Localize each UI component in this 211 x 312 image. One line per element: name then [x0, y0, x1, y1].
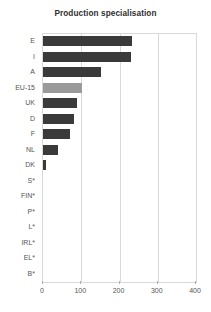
bar-row	[43, 267, 196, 283]
bar-nl	[43, 145, 58, 155]
bar-d	[43, 114, 74, 124]
bar-uk	[43, 98, 77, 108]
y-axis-label: S*	[0, 173, 38, 189]
bar-row	[43, 34, 196, 50]
x-axis-tick	[42, 281, 43, 284]
y-axis-label: L*	[0, 219, 38, 235]
bar-row	[43, 220, 196, 236]
bar-row	[43, 127, 196, 143]
bar-row	[43, 81, 196, 97]
y-axis-label: B*	[0, 266, 38, 282]
y-axis-label: DK	[0, 157, 38, 173]
y-axis-label: EU-15	[0, 80, 38, 96]
bar-dk	[43, 160, 46, 170]
x-axis-tick-label: 300	[151, 286, 163, 296]
bar-row	[43, 174, 196, 190]
bar-row	[43, 65, 196, 81]
bar-row	[43, 143, 196, 159]
x-axis-tick-labels: 0100200300400	[0, 286, 211, 298]
bar-row	[43, 112, 196, 128]
x-axis-tick	[157, 281, 158, 284]
production-specialisation-chart: Production specialisation EIAEU-15UKDFNL…	[0, 0, 211, 312]
y-axis-label: F	[0, 126, 38, 142]
x-axis-tick	[195, 281, 196, 284]
bar-row	[43, 96, 196, 112]
bar-row	[43, 50, 196, 66]
y-axis-label: UK	[0, 95, 38, 111]
x-axis-tick	[80, 281, 81, 284]
bar-row	[43, 251, 196, 267]
y-axis-label: FIN*	[0, 188, 38, 204]
y-axis-label: A	[0, 64, 38, 80]
bar-series	[43, 34, 196, 282]
bar-row	[43, 189, 196, 205]
y-axis-category-labels: EIAEU-15UKDFNLDKS*FIN*P*L*IRL*EL*B*	[0, 33, 38, 281]
x-axis-tick-label: 200	[113, 286, 125, 296]
y-axis-label: I	[0, 49, 38, 65]
bar-a	[43, 67, 101, 77]
bar-e	[43, 36, 132, 46]
bar-f	[43, 129, 70, 139]
y-axis-label: EL*	[0, 250, 38, 266]
bar-row	[43, 205, 196, 221]
y-axis-label: IRL*	[0, 235, 38, 251]
bar-row	[43, 236, 196, 252]
y-axis-label: P*	[0, 204, 38, 220]
x-axis-tick-label: 100	[74, 286, 86, 296]
bar-i	[43, 52, 131, 62]
plot-area	[42, 33, 197, 283]
bar-row	[43, 158, 196, 174]
x-axis-tick-label: 0	[40, 286, 44, 296]
y-axis-label: NL	[0, 142, 38, 158]
bar-eu-15	[43, 83, 82, 93]
chart-title: Production specialisation	[0, 9, 211, 19]
y-axis-label: D	[0, 111, 38, 127]
x-axis-tick-label: 400	[189, 286, 201, 296]
x-axis-tick	[119, 281, 120, 284]
y-axis-label: E	[0, 33, 38, 49]
x-axis-ticks	[42, 281, 195, 285]
